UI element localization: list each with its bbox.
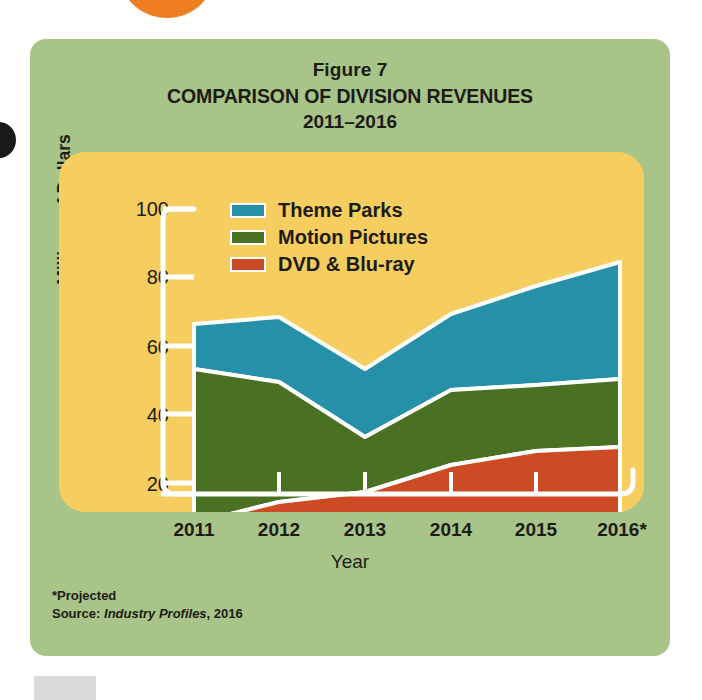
x-axis-title: Year	[30, 551, 670, 573]
legend-swatch-dvd-bluray-icon	[230, 257, 266, 272]
footnote-projected: *Projected	[52, 587, 243, 605]
x-tick-label-2012: 2012	[258, 519, 300, 541]
chart-areas	[194, 262, 620, 512]
footnote-source-prefix: Source:	[52, 606, 104, 621]
page-artifact-left-dot	[0, 122, 16, 158]
x-tick-label-2015: 2015	[515, 519, 557, 541]
figure-title-main: COMPARISON OF DIVISION REVENUES	[30, 83, 670, 109]
x-tick-label-2013: 2013	[344, 519, 386, 541]
figure-number: Figure 7	[30, 57, 670, 83]
figure-title: Figure 7 COMPARISON OF DIVISION REVENUES…	[30, 57, 670, 135]
x-tick-label-2016: 2016*	[597, 519, 647, 541]
legend-item-dvd-bluray: DVD & Blu-ray	[230, 251, 428, 278]
legend-swatch-theme-parks-icon	[230, 203, 266, 218]
y-axis-line	[163, 209, 194, 494]
legend-swatch-motion-pictures-icon	[230, 230, 266, 245]
figure-card: Figure 7 COMPARISON OF DIVISION REVENUES…	[30, 39, 670, 656]
footnote-source: Source: Industry Profiles, 2016	[52, 605, 243, 623]
footnote-source-suffix: , 2016	[207, 606, 243, 621]
page-artifact-orange-blob	[118, 0, 216, 18]
legend-item-theme-parks: Theme Parks	[230, 197, 428, 224]
page-artifact-bottom-swatch	[34, 676, 96, 700]
legend-label-dvd-bluray: DVD & Blu-ray	[278, 253, 415, 276]
figure-footnote: *Projected Source: Industry Profiles, 20…	[52, 587, 243, 623]
x-tick-label-2014: 2014	[430, 519, 472, 541]
x-tick-label-2011: 2011	[173, 519, 214, 541]
plot-panel: 100 80 60 40 20	[59, 152, 644, 512]
legend-item-motion-pictures: Motion Pictures	[230, 224, 428, 251]
x-axis-tick-labels: 2011 2012 2013 2014 2015 2016*	[59, 519, 644, 547]
legend-label-motion-pictures: Motion Pictures	[278, 226, 428, 249]
footnote-source-title: Industry Profiles	[104, 606, 207, 621]
chart-legend: Theme Parks Motion Pictures DVD & Blu-ra…	[230, 197, 428, 278]
figure-title-years: 2011–2016	[30, 109, 670, 135]
legend-label-theme-parks: Theme Parks	[278, 199, 403, 222]
y-tick-marks	[163, 209, 194, 483]
